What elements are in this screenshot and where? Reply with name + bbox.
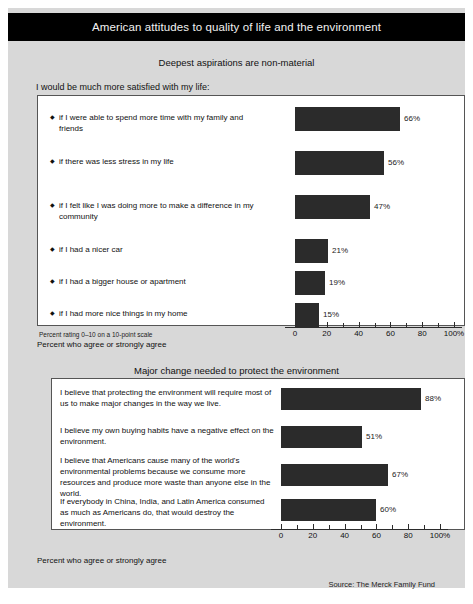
bar-value-label: 51% xyxy=(366,432,382,441)
chart2-title: Major change needed to protect the envir… xyxy=(8,365,465,376)
axis-tick-label: 40 xyxy=(340,531,349,540)
chart1-panel: 66%56%47%21%19%15%020406080100%if I were… xyxy=(37,95,465,326)
bar xyxy=(281,499,376,521)
source-note: Source: The Merck Family Fund xyxy=(328,580,435,589)
axis-tick-label: 20 xyxy=(308,531,317,540)
axis-tick xyxy=(359,322,360,327)
axis-tick-label: 20 xyxy=(322,329,331,338)
axis-tick xyxy=(440,524,441,529)
axis-tick xyxy=(408,524,409,529)
bar-value-label: 66% xyxy=(404,114,420,123)
category-label: if I had a nicer car xyxy=(50,244,268,255)
bar xyxy=(281,388,421,410)
axis-minor-tick xyxy=(343,323,344,327)
category-label: I believe my own buying habits have a ne… xyxy=(60,425,274,447)
axis-minor-tick xyxy=(329,525,330,529)
axis-minor-tick xyxy=(406,323,407,327)
bar-value-label: 47% xyxy=(374,202,390,211)
axis-minor-tick xyxy=(424,525,425,529)
axis-tick-label: 100% xyxy=(444,329,464,338)
axis-tick-label: 80 xyxy=(404,531,413,540)
axis-tick-label: 80 xyxy=(418,329,427,338)
category-label: if I had more nice things in my home xyxy=(50,308,268,319)
bar-value-label: 21% xyxy=(332,246,348,255)
bar xyxy=(295,107,400,131)
category-label: if I had a bigger house or apartment xyxy=(50,276,268,287)
axis-tick xyxy=(454,322,455,327)
bar-value-label: 67% xyxy=(392,470,408,479)
bar-value-label: 88% xyxy=(425,394,441,403)
axis-tick xyxy=(327,322,328,327)
bar xyxy=(295,303,319,327)
plot-area: 88%51%67%60%020406080100% xyxy=(271,379,464,529)
page-title: American attitudes to quality of life an… xyxy=(92,21,381,33)
axis-tick xyxy=(345,524,346,529)
axis-tick xyxy=(390,322,391,327)
axis-tick xyxy=(422,322,423,327)
axis-tick-label: 40 xyxy=(354,329,363,338)
category-label: If everybody in China, India, and Latin … xyxy=(60,496,274,529)
category-label: I believe that protecting the environmen… xyxy=(60,387,274,409)
bar xyxy=(295,271,325,295)
chart1-footnote-2: Percent who agree or strongly agree xyxy=(37,340,166,349)
axis-tick-label: 60 xyxy=(386,329,395,338)
chart1-title: Deepest aspirations are non-material xyxy=(8,57,465,68)
bar xyxy=(295,195,370,219)
chart2-panel: 88%51%67%60%020406080100%I believe that … xyxy=(51,378,465,530)
bar xyxy=(281,426,362,448)
axis-tick-label: 0 xyxy=(293,329,297,338)
axis-minor-tick xyxy=(361,525,362,529)
chart1-lead-in: I would be much more satisfied with my l… xyxy=(36,82,210,92)
axis-tick xyxy=(295,322,296,327)
axis-tick-label: 60 xyxy=(372,531,381,540)
axis-tick-label: 0 xyxy=(279,531,283,540)
axis-tick xyxy=(376,524,377,529)
category-label: I believe that Americans cause many of t… xyxy=(60,455,274,499)
axis-tick xyxy=(281,524,282,529)
bar-value-label: 15% xyxy=(323,310,339,319)
page-title-bar: American attitudes to quality of life an… xyxy=(8,13,465,41)
axis-minor-tick xyxy=(297,525,298,529)
x-axis xyxy=(271,529,448,530)
plot-area: 66%56%47%21%19%15%020406080100% xyxy=(285,96,464,325)
chart2-footnote-1: Percent who agree or strongly agree xyxy=(37,556,166,565)
category-label: if I felt like I was doing more to make … xyxy=(50,200,268,222)
axis-minor-tick xyxy=(375,323,376,327)
axis-minor-tick xyxy=(311,323,312,327)
category-label: if there was less stress in my life xyxy=(50,156,268,167)
bar xyxy=(295,151,384,175)
bar xyxy=(295,239,328,263)
category-label: if I were able to spend more time with m… xyxy=(50,112,268,134)
axis-minor-tick xyxy=(392,525,393,529)
axis-minor-tick xyxy=(438,323,439,327)
chart1-footnote-1: Percent rating 0–10 on a 10-point scale xyxy=(39,331,152,338)
axis-tick xyxy=(313,524,314,529)
x-axis xyxy=(285,327,462,328)
infographic-page: American attitudes to quality of life an… xyxy=(8,8,465,588)
bar-value-label: 19% xyxy=(329,278,345,287)
bar-value-label: 60% xyxy=(380,505,396,514)
bar-value-label: 56% xyxy=(388,158,404,167)
axis-tick-label: 100% xyxy=(430,531,450,540)
bar xyxy=(281,464,388,486)
